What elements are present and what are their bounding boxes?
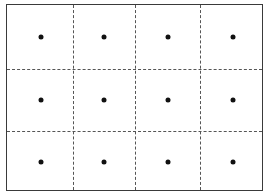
vertical-divider-2 (135, 5, 136, 190)
grid-point-r1-c2 (102, 35, 107, 40)
grid-point-r2-c4 (231, 98, 236, 103)
grid-point-r3-c2 (102, 160, 107, 165)
grid-point-r2-c3 (166, 98, 171, 103)
vertical-divider-1 (73, 5, 74, 190)
grid-frame (6, 4, 263, 191)
horizontal-divider-1 (7, 69, 262, 70)
horizontal-divider-2 (7, 131, 262, 132)
vertical-divider-3 (200, 5, 201, 190)
grid-point-r3-c1 (39, 160, 44, 165)
grid-point-r3-c4 (231, 160, 236, 165)
grid-point-r1-c4 (231, 35, 236, 40)
grid-point-r2-c1 (39, 98, 44, 103)
grid-point-r2-c2 (102, 98, 107, 103)
grid-point-r1-c3 (166, 35, 171, 40)
grid-point-r3-c3 (166, 160, 171, 165)
grid-point-r1-c1 (39, 35, 44, 40)
